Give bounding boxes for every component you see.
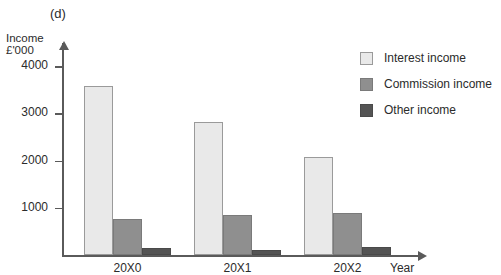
y-axis-tick: 4000 [55, 66, 62, 68]
legend-swatch-icon [360, 52, 373, 65]
bar-other-20x1 [252, 250, 281, 255]
y-axis-tick: 3000 [55, 113, 62, 115]
x-axis-tick-label: 20X1 [223, 261, 251, 275]
x-axis-tick-label: 20X0 [113, 261, 141, 275]
bar-interest-20x2 [304, 157, 333, 255]
legend-item-other[interactable]: Other income [360, 97, 500, 123]
y-axis-tick: 1000 [55, 208, 62, 210]
y-axis-tick-label: 3000 [21, 105, 48, 119]
y-axis-title-line1: Income [6, 32, 44, 44]
bar-commission-20x0 [113, 219, 142, 255]
x-axis-tick-label: 20X2 [333, 261, 361, 275]
legend-swatch-icon [360, 78, 373, 91]
bar-commission-20x2 [333, 213, 362, 255]
y-axis-title: Income £'000 [6, 32, 44, 56]
y-axis-tick-label: 1000 [21, 200, 48, 214]
legend-item-interest[interactable]: Interest income [360, 45, 500, 71]
bar-other-20x0 [142, 248, 171, 255]
bar-interest-20x0 [84, 86, 113, 255]
panel-label: (d) [50, 6, 66, 21]
bar-commission-20x1 [223, 215, 252, 255]
y-axis-tick: 2000 [55, 161, 62, 163]
x-axis-title: Year [390, 261, 414, 275]
legend-swatch-icon [360, 104, 373, 117]
income-bar-chart: (d) Income £'000 1000200030004000 20X020… [0, 0, 501, 275]
y-axis-title-line2: £'000 [6, 44, 44, 56]
legend-label: Other income [384, 103, 456, 117]
y-axis-tick-label: 2000 [21, 153, 48, 167]
chart-legend: Interest incomeCommission incomeOther in… [360, 45, 500, 123]
legend-item-commission[interactable]: Commission income [360, 71, 500, 97]
y-axis-tick-label: 4000 [21, 58, 48, 72]
legend-label: Commission income [384, 77, 492, 91]
bar-interest-20x1 [194, 122, 223, 255]
x-axis-line [62, 255, 420, 257]
bar-other-20x2 [362, 247, 391, 255]
legend-label: Interest income [384, 51, 466, 65]
